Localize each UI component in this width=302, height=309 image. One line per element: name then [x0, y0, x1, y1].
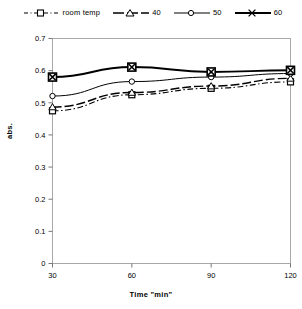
- svg-text:0.4: 0.4: [35, 131, 45, 140]
- svg-text:0.7: 0.7: [35, 34, 45, 43]
- y-axis-title: abs.: [5, 123, 14, 139]
- svg-text:30: 30: [48, 271, 56, 280]
- series-60: [49, 63, 295, 81]
- svg-text:60: 60: [128, 271, 136, 280]
- svg-text:0: 0: [41, 259, 45, 268]
- svg-text:0.3: 0.3: [35, 163, 45, 172]
- x-axis-title: Time "min": [0, 290, 302, 299]
- svg-text:120: 120: [284, 271, 297, 280]
- plot-area: 00.10.20.30.40.50.60.7 306090120: [0, 0, 302, 309]
- series-room-temp: [50, 79, 294, 114]
- svg-text:0.5: 0.5: [35, 99, 45, 108]
- series-40: [49, 75, 294, 110]
- svg-text:0.1: 0.1: [35, 227, 45, 236]
- x-tick-labels: 306090120: [48, 271, 296, 280]
- series-50: [50, 71, 293, 99]
- data-series-group: [49, 63, 295, 114]
- svg-text:90: 90: [207, 271, 215, 280]
- y-tick-labels: 00.10.20.30.40.50.60.7: [35, 34, 45, 268]
- svg-text:0.6: 0.6: [35, 66, 45, 75]
- chart-figure: room temp 40 50: [0, 0, 302, 309]
- svg-text:0.2: 0.2: [35, 195, 45, 204]
